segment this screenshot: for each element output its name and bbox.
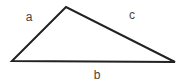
side-label-c: c	[129, 8, 135, 22]
triangle-diagram: a c b	[0, 0, 185, 81]
side-label-a: a	[26, 10, 33, 24]
side-label-b: b	[94, 68, 101, 81]
triangle-shape	[12, 7, 175, 62]
